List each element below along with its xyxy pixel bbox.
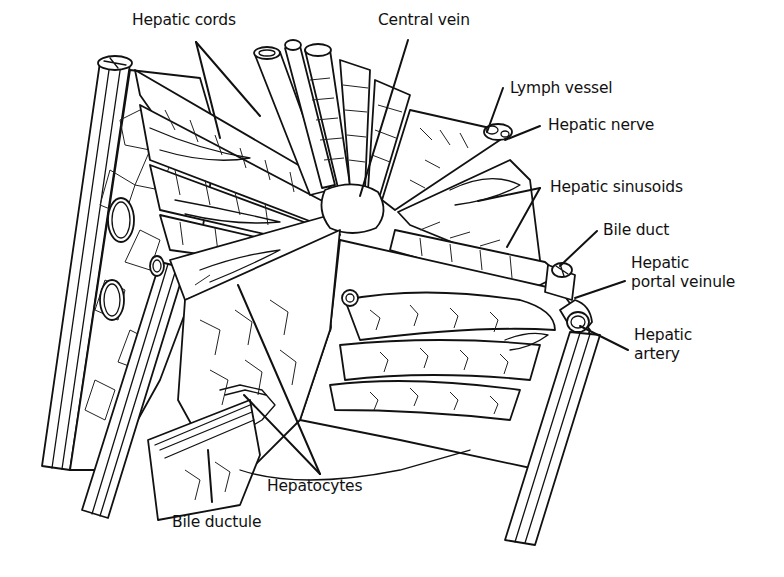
label-hepatic-cords: Hepatic cords bbox=[132, 11, 236, 30]
label-hepatic-nerve: Hepatic nerve bbox=[548, 116, 654, 135]
lobule-bottom-edge bbox=[240, 450, 470, 480]
label-central-vein: Central vein bbox=[378, 11, 470, 30]
label-hepatic-artery-line1: Hepatic bbox=[634, 326, 692, 345]
label-hepatocytes: Hepatocytes bbox=[267, 477, 362, 496]
label-hepatic-artery: Hepatic artery bbox=[634, 326, 692, 364]
label-hepatic-sinusoids: Hepatic sinusoids bbox=[550, 178, 683, 197]
label-lymph-vessel: Lymph vessel bbox=[510, 79, 612, 98]
label-hepatic-artery-line2: artery bbox=[634, 345, 692, 364]
central-vein bbox=[321, 184, 383, 233]
label-hepatic-portal-veinule-line1: Hepatic bbox=[631, 254, 735, 273]
label-bile-duct: Bile duct bbox=[603, 221, 669, 240]
label-hepatic-portal-veinule: Hepatic portal veinule bbox=[631, 254, 735, 292]
label-hepatic-portal-veinule-line2: portal veinule bbox=[631, 273, 735, 292]
label-bile-ductule: Bile ductule bbox=[172, 513, 261, 532]
